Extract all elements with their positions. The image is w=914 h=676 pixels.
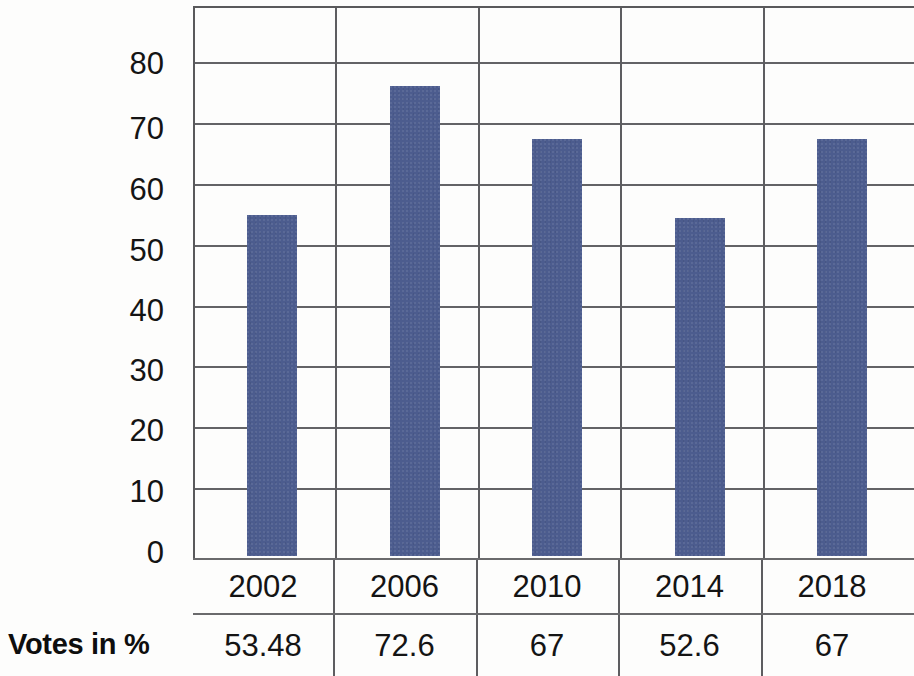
year-cell-2002: 2002 (193, 560, 333, 613)
row-label-votes-in-percent: Votes in % (0, 628, 178, 661)
year-cell-2006: 2006 (333, 560, 476, 613)
column-divider-1 (335, 8, 337, 558)
column-divider-3 (620, 8, 622, 558)
table-row: 53.48 72.6 67 52.6 67 (193, 613, 914, 676)
votes-cell-2010: 67 (476, 615, 618, 676)
bar-2014 (675, 218, 725, 556)
y-tick-label-10: 10 (44, 476, 164, 507)
y-tick-label-60: 60 (44, 174, 164, 205)
year-cell-2018: 2018 (761, 560, 903, 613)
votes-cell-2018: 67 (761, 615, 903, 676)
gridline-80 (195, 62, 914, 64)
bar-2006 (390, 86, 440, 556)
table-row: 2002 2006 2010 2014 2018 (193, 558, 914, 613)
votes-cell-2002: 53.48 (193, 615, 333, 676)
y-tick-label-70: 70 (44, 113, 164, 144)
column-divider-4 (763, 8, 765, 558)
y-tick-label-30: 30 (44, 355, 164, 386)
y-tick-label-20: 20 (44, 415, 164, 446)
gridline-70 (195, 123, 914, 125)
votes-cell-2014: 52.6 (618, 615, 761, 676)
year-cell-2010: 2010 (476, 560, 618, 613)
y-tick-label-50: 50 (44, 235, 164, 266)
year-cell-2014: 2014 (618, 560, 761, 613)
bar-chart-figure: 80 70 60 50 40 30 20 10 0 (0, 0, 914, 676)
bar-2002 (247, 215, 297, 556)
bar-2018 (817, 139, 867, 556)
column-divider-2 (478, 8, 480, 558)
data-table: 2002 2006 2010 2014 2018 Votes in % 53.4… (0, 558, 914, 676)
y-tick-label-80: 80 (44, 48, 164, 79)
y-tick-label-40: 40 (44, 295, 164, 326)
votes-cell-2006: 72.6 (333, 615, 476, 676)
bar-2010 (532, 139, 582, 556)
y-axis: 80 70 60 50 40 30 20 10 0 (0, 0, 178, 560)
plot-area (193, 6, 914, 558)
